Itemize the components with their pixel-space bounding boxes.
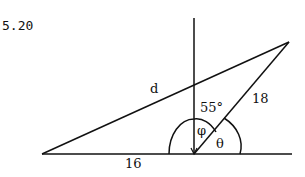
label-theta: θ (216, 137, 224, 150)
label-16: 16 (125, 157, 142, 170)
figure: 5.20 d 18 55° φ θ 16 (0, 0, 305, 177)
theta-arc (224, 118, 241, 154)
label-phi: φ (197, 124, 206, 137)
label-55-degrees: 55° (200, 101, 223, 114)
problem-number: 5.20 (2, 19, 33, 32)
label-18: 18 (252, 92, 269, 105)
side-18 (194, 42, 289, 154)
label-d: d (150, 82, 158, 95)
